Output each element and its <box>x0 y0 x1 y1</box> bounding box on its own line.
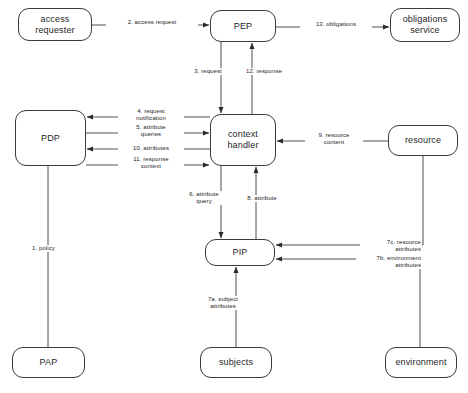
node-label: subjects <box>216 357 256 368</box>
node-label: obligations service <box>400 14 451 36</box>
edge-label-7a-subject-attributes: 7a. subject attributes <box>192 296 254 310</box>
edge-label-8-attribute: 8. attribute <box>238 195 286 202</box>
edge-label-10-attributes: 10. attributes <box>118 145 184 152</box>
edge-label-7b-environment-attributes: 7b. environment attributes <box>356 255 422 269</box>
node-pip[interactable]: PIP <box>205 239 275 266</box>
edge-label-5-attribute-queries: 5. attribute queries <box>118 124 184 138</box>
edge-label-13-obligations: 13. obligations <box>300 21 372 28</box>
node-context-handler[interactable]: context handler <box>210 114 276 166</box>
diagram-connectors <box>0 0 468 393</box>
node-access-requester[interactable]: access requester <box>18 8 92 41</box>
node-label: resource <box>402 135 444 146</box>
node-obligations-service[interactable]: obligations service <box>390 8 460 42</box>
node-subjects[interactable]: subjects <box>200 347 272 378</box>
node-pdp[interactable]: PDP <box>15 110 86 166</box>
edge-label-1-policy: 1. policy <box>31 245 73 252</box>
edge-label-11-response-context: 11. response context <box>118 156 184 170</box>
node-label: PAP <box>37 357 61 368</box>
node-pep[interactable]: PEP <box>210 10 276 42</box>
node-label: PEP <box>231 21 255 32</box>
connector-7b-environment-attributes <box>276 259 420 347</box>
node-label: context handler <box>224 129 261 151</box>
edge-label-4-request-notification: 4. request notification <box>118 108 184 122</box>
node-label: environment <box>392 357 449 368</box>
xacml-dataflow-diagram: access requester PEP obligations service… <box>0 0 468 393</box>
edge-label-9-resource-content: 9. resource content <box>305 132 363 146</box>
node-label: PIP <box>230 247 251 258</box>
edge-label-2-access-request: 2. access request <box>106 19 198 26</box>
edge-label-12-response: 12. response <box>237 68 291 75</box>
node-label: PDP <box>38 133 63 144</box>
node-resource[interactable]: resource <box>388 125 458 156</box>
edge-label-7c-resource-attributes: 7c. resource attributes <box>360 239 422 253</box>
edge-label-3-request: 3. request <box>186 68 230 75</box>
node-label: access requester <box>32 14 77 36</box>
node-pap[interactable]: PAP <box>12 347 85 378</box>
node-environment[interactable]: environment <box>385 347 457 378</box>
connector-7c-resource-attributes <box>276 156 423 245</box>
edge-label-6-attribute-query: 6. attribute query <box>178 191 230 205</box>
